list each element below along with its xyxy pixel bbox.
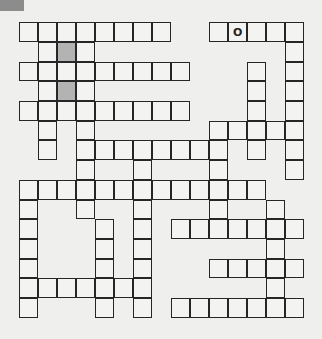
grid-cell-r12-c0[interactable] (19, 259, 38, 279)
grid-cell-r11-c4[interactable] (95, 239, 114, 259)
grid-cell-r10-c9[interactable] (190, 219, 209, 239)
grid-cell-r8-c4[interactable] (95, 180, 114, 200)
grid-cell-r13-c0[interactable] (19, 278, 38, 298)
grid-cell-r9-c10[interactable] (209, 200, 228, 220)
grid-cell-r4-c14[interactable] (285, 101, 304, 121)
grid-cell-r0-c14[interactable] (285, 22, 304, 42)
grid-cell-r6-c1[interactable] (38, 140, 57, 160)
grid-cell-r12-c12[interactable] (247, 259, 266, 279)
grid-cell-r8-c3[interactable] (76, 180, 95, 200)
grid-cell-r14-c4[interactable] (95, 298, 114, 318)
grid-cell-r12-c11[interactable] (228, 259, 247, 279)
grid-cell-r6-c8[interactable] (171, 140, 190, 160)
grid-cell-r5-c1[interactable] (38, 121, 57, 141)
grid-cell-r12-c4[interactable] (95, 259, 114, 279)
grid-cell-r10-c13[interactable] (266, 219, 285, 239)
grid-cell-r3-c2[interactable] (57, 81, 76, 101)
grid-cell-r4-c2[interactable] (57, 101, 76, 121)
grid-cell-r4-c6[interactable] (133, 101, 152, 121)
grid-cell-r0-c4[interactable] (95, 22, 114, 42)
grid-cell-r1-c3[interactable] (76, 42, 95, 62)
grid-cell-r1-c1[interactable] (38, 42, 57, 62)
grid-cell-r5-c14[interactable] (285, 121, 304, 141)
grid-cell-r6-c6[interactable] (133, 140, 152, 160)
grid-cell-r13-c13[interactable] (266, 278, 285, 298)
grid-cell-r5-c10[interactable] (209, 121, 228, 141)
grid-cell-r1-c2[interactable] (57, 42, 76, 62)
grid-cell-r4-c0[interactable] (19, 101, 38, 121)
grid-cell-r0-c10[interactable] (209, 22, 228, 42)
grid-cell-r2-c8[interactable] (171, 62, 190, 82)
grid-cell-r14-c12[interactable] (247, 298, 266, 318)
grid-cell-r6-c14[interactable] (285, 140, 304, 160)
grid-cell-r6-c7[interactable] (152, 140, 171, 160)
grid-cell-r6-c3[interactable] (76, 140, 95, 160)
grid-cell-r9-c6[interactable] (133, 200, 152, 220)
grid-cell-r6-c12[interactable] (247, 140, 266, 160)
grid-cell-r0-c5[interactable] (114, 22, 133, 42)
grid-cell-r14-c14[interactable] (285, 298, 304, 318)
grid-cell-r4-c4[interactable] (95, 101, 114, 121)
grid-cell-r2-c12[interactable] (247, 62, 266, 82)
grid-cell-r13-c3[interactable] (76, 278, 95, 298)
grid-cell-r12-c6[interactable] (133, 259, 152, 279)
grid-cell-r2-c2[interactable] (57, 62, 76, 82)
grid-cell-r0-c0[interactable] (19, 22, 38, 42)
grid-cell-r2-c3[interactable] (76, 62, 95, 82)
grid-cell-r10-c6[interactable] (133, 219, 152, 239)
grid-cell-r5-c13[interactable] (266, 121, 285, 141)
grid-cell-r14-c8[interactable] (171, 298, 190, 318)
grid-cell-r8-c0[interactable] (19, 180, 38, 200)
grid-cell-r14-c10[interactable] (209, 298, 228, 318)
grid-cell-r2-c1[interactable] (38, 62, 57, 82)
grid-cell-r0-c2[interactable] (57, 22, 76, 42)
grid-cell-r8-c11[interactable] (228, 180, 247, 200)
grid-cell-r13-c2[interactable] (57, 278, 76, 298)
grid-cell-r6-c4[interactable] (95, 140, 114, 160)
grid-cell-r4-c7[interactable] (152, 101, 171, 121)
grid-cell-r13-c4[interactable] (95, 278, 114, 298)
grid-cell-r8-c2[interactable] (57, 180, 76, 200)
grid-cell-r0-c7[interactable] (152, 22, 171, 42)
grid-cell-r7-c14[interactable] (285, 160, 304, 180)
grid-cell-r7-c6[interactable] (133, 160, 152, 180)
grid-cell-r4-c1[interactable] (38, 101, 57, 121)
grid-cell-r13-c5[interactable] (114, 278, 133, 298)
grid-cell-r14-c9[interactable] (190, 298, 209, 318)
grid-cell-r1-c14[interactable] (285, 42, 304, 62)
grid-cell-r0-c3[interactable] (76, 22, 95, 42)
grid-cell-r9-c0[interactable] (19, 200, 38, 220)
grid-cell-r4-c3[interactable] (76, 101, 95, 121)
grid-cell-r4-c5[interactable] (114, 101, 133, 121)
grid-cell-r9-c13[interactable] (266, 200, 285, 220)
grid-cell-r10-c11[interactable] (228, 219, 247, 239)
grid-cell-r14-c0[interactable] (19, 298, 38, 318)
grid-cell-r11-c0[interactable] (19, 239, 38, 259)
grid-cell-r3-c12[interactable] (247, 81, 266, 101)
grid-cell-r7-c10[interactable] (209, 160, 228, 180)
grid-cell-r4-c12[interactable] (247, 101, 266, 121)
grid-cell-r12-c13[interactable] (266, 259, 285, 279)
grid-cell-r14-c13[interactable] (266, 298, 285, 318)
grid-cell-r13-c1[interactable] (38, 278, 57, 298)
grid-cell-r10-c8[interactable] (171, 219, 190, 239)
grid-cell-r12-c10[interactable] (209, 259, 228, 279)
grid-cell-r7-c3[interactable] (76, 160, 95, 180)
grid-cell-r13-c6[interactable] (133, 278, 152, 298)
grid-cell-r8-c10[interactable] (209, 180, 228, 200)
grid-cell-r2-c4[interactable] (95, 62, 114, 82)
grid-cell-r10-c4[interactable] (95, 219, 114, 239)
grid-cell-r6-c9[interactable] (190, 140, 209, 160)
grid-cell-r2-c14[interactable] (285, 62, 304, 82)
grid-cell-r3-c3[interactable] (76, 81, 95, 101)
grid-cell-r11-c6[interactable] (133, 239, 152, 259)
grid-cell-r10-c14[interactable] (285, 219, 304, 239)
grid-cell-r8-c1[interactable] (38, 180, 57, 200)
grid-cell-r5-c3[interactable] (76, 121, 95, 141)
grid-cell-r4-c8[interactable] (171, 101, 190, 121)
grid-cell-r14-c6[interactable] (133, 298, 152, 318)
grid-cell-r6-c10[interactable] (209, 140, 228, 160)
grid-cell-r8-c9[interactable] (190, 180, 209, 200)
grid-cell-r10-c12[interactable] (247, 219, 266, 239)
grid-cell-r3-c14[interactable] (285, 81, 304, 101)
